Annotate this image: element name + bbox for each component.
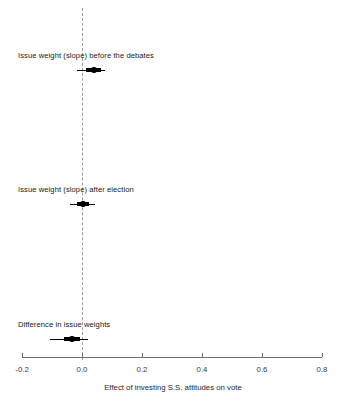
x-axis-tick-label: 0.2 xyxy=(137,366,148,374)
x-axis-line xyxy=(22,357,322,358)
estimate-label: Issue weight (slope) after election xyxy=(18,186,134,194)
x-axis-tick xyxy=(202,353,203,357)
plot-area: Issue weight (slope) before the debates … xyxy=(0,0,346,405)
point-estimate-marker xyxy=(80,201,85,206)
x-axis-tick xyxy=(82,353,83,357)
x-axis-tick-label: 0.6 xyxy=(257,366,268,374)
x-axis-tick-label: 0.4 xyxy=(197,366,208,374)
x-axis-tick xyxy=(322,353,323,357)
estimate-label: Difference in issue weights xyxy=(18,321,110,329)
point-estimate-marker xyxy=(69,336,74,341)
point-estimate-marker xyxy=(91,67,96,72)
zero-reference-line xyxy=(82,8,83,360)
estimate-label: Issue weight (slope) before the debates xyxy=(18,52,154,60)
x-axis-tick xyxy=(142,353,143,357)
x-axis-tick-label: 0.0 xyxy=(77,366,88,374)
x-axis-tick-label: 0.8 xyxy=(317,366,328,374)
x-axis-tick xyxy=(262,353,263,357)
x-axis-tick xyxy=(22,353,23,357)
x-axis-title: Effect of investing S.S. attitudes on vo… xyxy=(0,384,346,392)
coefficient-plot-figure: Issue weight (slope) before the debates … xyxy=(0,0,346,405)
x-axis-tick-label: -0.2 xyxy=(15,366,28,374)
